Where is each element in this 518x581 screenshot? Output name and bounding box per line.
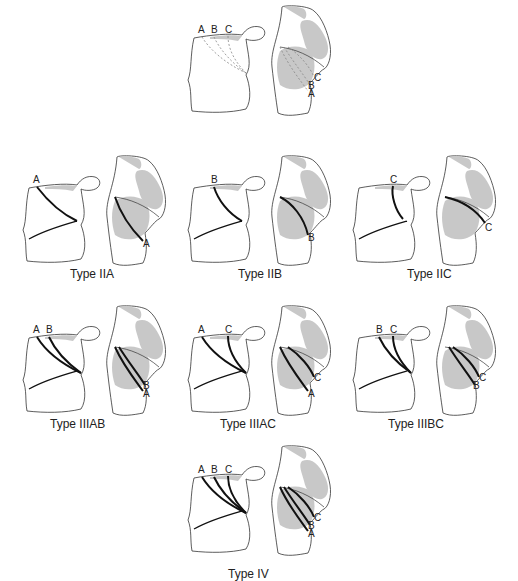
left-bone-view	[23, 176, 100, 262]
label-right-a: A	[308, 528, 315, 539]
label-left-c: C	[390, 324, 397, 335]
label-right-b: B	[308, 232, 315, 243]
label-left-a: A	[33, 174, 40, 185]
left-bone-view	[188, 326, 265, 412]
right-bone-view	[107, 306, 166, 416]
label-left-c: C	[225, 464, 232, 475]
label-left-b: B	[46, 324, 53, 335]
label-left-c: C	[225, 324, 232, 335]
label-left-c: C	[225, 24, 232, 35]
label-right-b: B	[473, 380, 480, 391]
panel-iv: ABCCBAType IV	[180, 445, 350, 575]
left-bone-view	[353, 326, 430, 412]
panel-reference: ABCCBA	[180, 5, 350, 135]
panel-caption: Type IIC	[407, 267, 452, 281]
panel-iib: BBType IIB	[180, 155, 350, 285]
right-bone-view	[272, 306, 331, 416]
label-left-c: C	[390, 174, 397, 185]
panel-caption: Type IIA	[70, 267, 114, 281]
right-bone-view	[272, 6, 331, 116]
left-bone-view	[188, 26, 265, 112]
panel-caption: Type IV	[228, 567, 269, 581]
label-left-b: B	[211, 24, 218, 35]
right-bone-view	[272, 446, 331, 556]
label-left-a: A	[198, 24, 205, 35]
panel-iic: CCType IIC	[345, 155, 515, 285]
label-right-c: C	[485, 222, 492, 233]
label-left-a: A	[33, 324, 40, 335]
label-right-a: A	[143, 388, 150, 399]
left-bone-view	[23, 326, 100, 412]
panel-iia: AAType IIA	[15, 155, 185, 285]
label-left-b: B	[211, 464, 218, 475]
left-bone-view	[188, 466, 265, 552]
label-right-c: C	[314, 512, 321, 523]
label-left-a: A	[198, 324, 205, 335]
right-bone-view	[437, 306, 496, 416]
left-bone-view	[188, 176, 265, 262]
label-right-a: A	[143, 238, 150, 249]
label-right-c: C	[479, 372, 486, 383]
right-bone-view	[107, 156, 166, 266]
right-bone-view	[272, 156, 331, 266]
panel-caption: Type IIIAB	[50, 417, 105, 431]
label-right-c: C	[314, 372, 321, 383]
label-right-a: A	[308, 88, 315, 99]
panel-caption: Type IIB	[238, 267, 282, 281]
panel-iiiac: ACCAType IIIAC	[180, 305, 350, 435]
panel-caption: Type IIIBC	[388, 417, 444, 431]
panel-caption: Type IIIAC	[220, 417, 276, 431]
label-right-a: A	[308, 388, 315, 399]
label-right-c: C	[314, 72, 321, 83]
panel-iiiab: ABBAType IIIAB	[15, 305, 185, 435]
label-left-b: B	[211, 174, 218, 185]
label-left-a: A	[198, 464, 205, 475]
right-bone-view	[437, 156, 496, 266]
panel-iiibc: BCCBType IIIBC	[345, 305, 515, 435]
label-left-b: B	[376, 324, 383, 335]
left-bone-view	[353, 176, 430, 262]
